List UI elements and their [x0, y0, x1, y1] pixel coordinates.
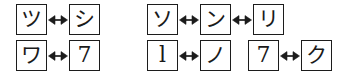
- glyph-letter-l-box: l: [147, 40, 178, 71]
- glyph-cluster: lノ: [147, 40, 231, 71]
- glyph-digit-seven-box: 7: [69, 40, 100, 71]
- glyph-group-left: ツシワ7: [16, 4, 100, 71]
- left-right-arrow-icon: [47, 40, 69, 71]
- glyph-ku: ク: [306, 45, 327, 66]
- left-right-arrow-icon: [178, 40, 200, 71]
- glyph-cluster: ソンリ: [147, 4, 284, 35]
- glyph-cluster: ワ7: [16, 40, 100, 71]
- glyph-so: ソ: [152, 9, 173, 30]
- left-right-arrow-icon: [47, 4, 69, 35]
- character-confusion-figure: ツシワ7ソンリlノ7ク: [0, 0, 354, 76]
- glyph-digit-seven: 7: [257, 44, 271, 66]
- glyph-n: ン: [205, 9, 226, 30]
- glyph-ri: リ: [258, 9, 279, 30]
- glyph-tsu-box: ツ: [16, 4, 47, 35]
- glyph-shi: シ: [74, 9, 95, 30]
- glyph-ku-box: ク: [301, 40, 332, 71]
- glyph-n-box: ン: [200, 4, 231, 35]
- glyph-cluster: 7ク: [248, 40, 332, 71]
- glyph-digit-seven: 7: [78, 44, 92, 66]
- glyph-group-right: ソンリlノ7ク: [147, 4, 332, 71]
- left-right-arrow-icon: [231, 4, 253, 35]
- glyph-wa: ワ: [21, 45, 42, 66]
- glyph-digit-seven-box: 7: [248, 40, 279, 71]
- glyph-wa-box: ワ: [16, 40, 47, 71]
- glyph-row: ワ7: [16, 40, 100, 71]
- glyph-no-box: ノ: [200, 40, 231, 71]
- left-right-arrow-icon: [178, 4, 200, 35]
- glyph-ri-box: リ: [253, 4, 284, 35]
- glyph-row: lノ7ク: [147, 40, 332, 71]
- glyph-shi-box: シ: [69, 4, 100, 35]
- glyph-so-box: ソ: [147, 4, 178, 35]
- glyph-tsu: ツ: [21, 9, 42, 30]
- glyph-row: ソンリ: [147, 4, 332, 35]
- glyph-letter-l: l: [159, 44, 166, 66]
- left-right-arrow-icon: [279, 40, 301, 71]
- glyph-cluster: ツシ: [16, 4, 100, 35]
- glyph-row: ツシ: [16, 4, 100, 35]
- glyph-no: ノ: [205, 45, 226, 66]
